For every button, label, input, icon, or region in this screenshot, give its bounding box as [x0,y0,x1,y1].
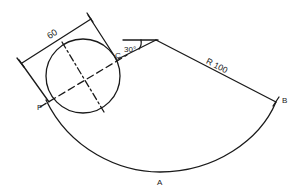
label-point-a: A [157,178,163,187]
radius-line-r100 [156,40,276,102]
label-point-c: C [115,51,121,60]
dimension-line-60 [22,19,91,63]
label-point-p: P [37,103,42,112]
center-line-vertical [62,42,104,112]
arc-pab [46,100,276,172]
engineering-diagram: 60 30° R 100 C B P A [0,0,304,195]
center-line-horizontal [40,55,127,107]
label-angle-30: 30° [124,45,136,54]
label-dimension-60: 60 [45,27,59,41]
label-radius-r100: R 100 [205,56,230,75]
label-point-b: B [282,96,287,105]
